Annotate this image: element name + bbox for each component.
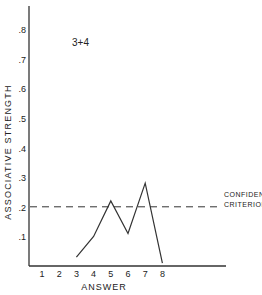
y-tick-label: .4: [18, 144, 26, 154]
y-tick-label: .3: [18, 173, 26, 183]
x-tick-label: 4: [91, 269, 96, 279]
x-tick-label: 1: [39, 269, 44, 279]
y-axis-label: ASSOCIATIVE STRENGTH: [3, 84, 13, 219]
y-tick-label: .2: [18, 203, 26, 213]
x-tick-label: 3: [74, 269, 79, 279]
y-tick-label: .7: [18, 55, 26, 65]
x-tick-label: 7: [143, 269, 148, 279]
x-axis-label: ANSWER: [81, 282, 127, 292]
reference-line-label-1: CONFIDENCE: [224, 191, 262, 198]
y-tick-label: .6: [18, 84, 26, 94]
x-tick-label: 6: [125, 269, 130, 279]
y-tick-label: .5: [18, 114, 26, 124]
chart-annotation: 3+4: [72, 37, 89, 48]
data-line: [76, 183, 162, 263]
y-tick-labels: .1.2.3.4.5.6.7.8: [18, 25, 26, 242]
y-tick-label: .8: [18, 25, 26, 35]
x-tick-label: 8: [160, 269, 165, 279]
x-tick-label: 5: [108, 269, 113, 279]
x-tick-label: 2: [57, 269, 62, 279]
y-tick-label: .1: [18, 232, 26, 242]
reference-line-label-2: CRITERION: [224, 201, 262, 208]
line-chart: .1.2.3.4.5.6.7.8 12345678 3+4 CONFIDENCE…: [0, 0, 262, 295]
x-tick-labels: 12345678: [39, 269, 164, 279]
